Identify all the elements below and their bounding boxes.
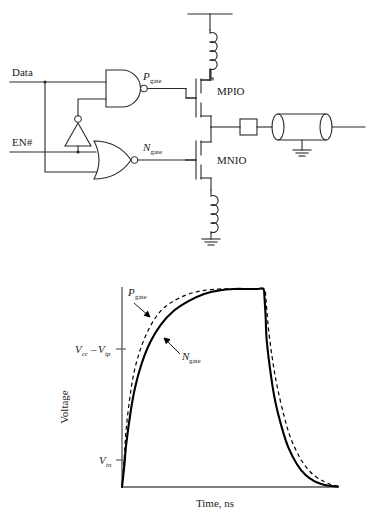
vtn-tick-label: V tn: [99, 454, 112, 469]
bottom-ground: [202, 233, 220, 245]
svg-text:cc: cc: [82, 350, 89, 358]
cmos-io-driver-schematic: MPIO MNIO: [0, 0, 369, 262]
vcc-minus-vtp-tick-label: V cc – V tp: [75, 343, 111, 358]
svg-text:gate: gate: [151, 148, 163, 156]
svg-text:–: –: [90, 343, 97, 355]
n-gate-curve: [122, 288, 338, 487]
pmos-gate-route: [186, 89, 196, 99]
p-gate-net-label: P gate: [142, 70, 162, 85]
p-gate-curve: [122, 289, 338, 487]
inverter-gate: [65, 99, 106, 146]
nmos-output-transistor: [186, 127, 211, 190]
enable-input-label: EN#: [12, 136, 33, 148]
data-input-label: Data: [12, 66, 33, 78]
data-branch-wire: [45, 82, 96, 172]
n-gate-annotation: N gate: [164, 338, 201, 365]
p-gate-annotation: P gate: [127, 286, 150, 317]
series-resistor: [240, 119, 272, 135]
svg-text:tp: tp: [105, 350, 111, 358]
nmos-label: MNIO: [217, 154, 246, 166]
figure-root: MPIO MNIO: [0, 0, 369, 515]
load-ground: [293, 140, 311, 156]
x-axis-title: Time, ns: [196, 497, 234, 509]
svg-text:P: P: [142, 70, 150, 82]
gate-voltage-waveform-plot: V cc – V tp V tn Voltage Time, ns P gate…: [0, 262, 369, 515]
svg-text:gate: gate: [189, 357, 201, 365]
gnd-lead-inductor: [211, 190, 218, 233]
nor-gate: [94, 141, 186, 179]
vcc-lead-inductor: [210, 30, 217, 70]
data-junction-dot: [44, 81, 47, 84]
transmission-line: [272, 114, 365, 140]
y-axis-title: Voltage: [58, 390, 70, 424]
n-gate-net-label: N gate: [142, 141, 162, 156]
svg-text:P: P: [127, 286, 135, 298]
pmos-label: MPIO: [217, 85, 245, 97]
svg-text:gate: gate: [135, 293, 147, 301]
svg-text:tn: tn: [106, 461, 112, 469]
svg-text:gate: gate: [150, 77, 162, 85]
enable-junction-dot: [77, 151, 80, 154]
supply-rail: [188, 14, 232, 30]
